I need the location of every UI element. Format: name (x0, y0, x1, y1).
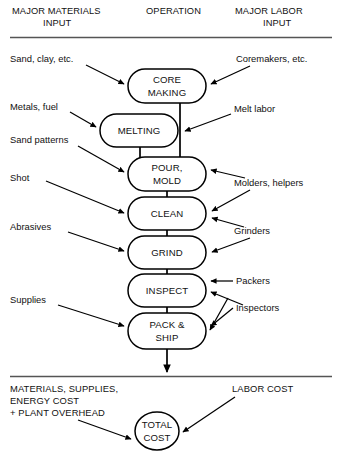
arrow-sand-clay (86, 65, 124, 84)
header-operation: OPERATION (146, 6, 201, 16)
arrow-sand-patterns (78, 146, 124, 172)
arrow-molders-to-pour-mold (211, 170, 245, 178)
foundry-cost-flowchart: MAJOR MATERIALS INPUT OPERATION MAJOR LA… (0, 0, 346, 464)
label-sand-patterns: Sand patterns (10, 134, 69, 145)
header-labor-line2: INPUT (263, 18, 292, 28)
label-molders-helpers: Molders, helpers (234, 177, 304, 188)
materials-cost-line3: + PLANT OVERHEAD (10, 407, 105, 418)
labor-cost-label: LABOR COST (232, 383, 294, 394)
arrow-supplies (58, 305, 124, 326)
label-coremakers: Coremakers, etc. (236, 53, 307, 64)
node-clean[interactable]: CLEAN (128, 197, 206, 230)
header-materials-line2: INPUT (43, 18, 72, 28)
node-core-making-line2: MAKING (148, 87, 186, 98)
header-labor-line1: MAJOR LABOR (235, 6, 303, 16)
arrow-molders-to-clean (212, 190, 250, 211)
labor-input-labels: Coremakers, etc. Melt labor Molders, hel… (234, 53, 307, 313)
label-supplies: Supplies (10, 294, 46, 305)
node-pour-mold[interactable]: POUR, MOLD (128, 157, 206, 191)
label-shot: Shot (10, 172, 30, 183)
node-total-cost-line1: TOTAL (142, 419, 173, 430)
arrow-metals-fuel (70, 112, 96, 127)
node-pour-mold-line2: MOLD (153, 175, 181, 186)
arrow-materials-cost-to-total (78, 420, 131, 439)
node-total-cost-line2: COST (143, 432, 170, 443)
label-sand-clay: Sand, clay, etc. (10, 53, 73, 64)
material-input-labels: Sand, clay, etc. Metals, fuel Sand patte… (10, 53, 73, 305)
node-pack-ship[interactable]: PACK & SHIP (128, 313, 206, 349)
node-inspect-line1: INSPECT (146, 285, 188, 296)
arrow-labor-cost-to-total (183, 397, 235, 432)
node-clean-line1: CLEAN (151, 208, 184, 219)
label-abrasives: Abrasives (10, 221, 51, 232)
node-melting[interactable]: MELTING (100, 114, 178, 147)
arrow-grinders-to-grind (212, 238, 250, 252)
node-grind-line1: GRIND (151, 247, 182, 258)
node-melting-line1: MELTING (118, 125, 161, 136)
node-grind[interactable]: GRIND (128, 236, 206, 269)
arrow-grinders-to-clean (212, 218, 244, 227)
arrow-packers-to-pack-ship (211, 292, 243, 305)
header-materials-line1: MAJOR MATERIALS (12, 6, 101, 16)
label-grinders: Grinders (234, 225, 270, 236)
label-melt-labor: Melt labor (234, 103, 275, 114)
materials-cost-line2: ENERGY COST (10, 395, 79, 406)
arrow-shot (46, 181, 124, 213)
node-core-making-line1: CORE (153, 74, 181, 85)
label-packers: Packers (236, 275, 270, 286)
arrow-coremakers (211, 66, 250, 84)
node-total-cost[interactable]: TOTAL COST (135, 412, 179, 450)
cost-summary: MATERIALS, SUPPLIES, ENERGY COST + PLANT… (10, 383, 294, 450)
node-pack-ship-line1: PACK & (149, 319, 185, 330)
node-core-making[interactable]: CORE MAKING (128, 69, 206, 103)
label-inspectors: Inspectors (236, 302, 280, 313)
node-pack-ship-line2: SHIP (156, 332, 179, 343)
arrow-abrasives (68, 232, 124, 251)
arrow-melt-labor (185, 114, 231, 131)
flowchart-canvas: MAJOR MATERIALS INPUT OPERATION MAJOR LA… (0, 0, 346, 464)
column-headers: MAJOR MATERIALS INPUT OPERATION MAJOR LA… (12, 6, 303, 28)
node-pour-mold-line1: POUR, (152, 162, 183, 173)
label-metals-fuel: Metals, fuel (10, 101, 58, 112)
materials-cost-line1: MATERIALS, SUPPLIES, (10, 383, 118, 394)
node-inspect[interactable]: INSPECT (128, 274, 206, 307)
operation-nodes: CORE MAKING MELTING POUR, MOLD CLEAN (100, 69, 206, 349)
node-total-cost-shape (135, 412, 179, 450)
